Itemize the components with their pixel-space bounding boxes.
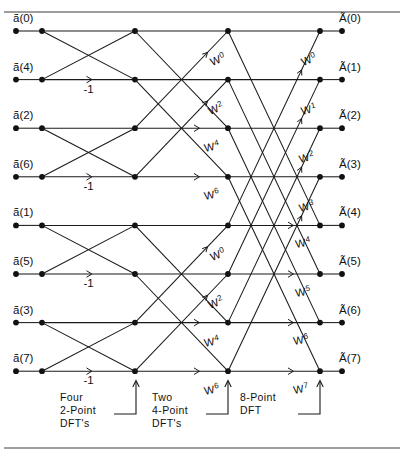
output-node-3 [339, 174, 345, 180]
twiddle-base: W7 [292, 380, 310, 396]
input-node-7 [13, 368, 19, 374]
twiddle-base: W1 [299, 100, 318, 116]
fft-signal-flow-figure: -1-1-1-1W0W2W4W6W0W2W4W6W0W1W2W3W4W5W6W7… [0, 0, 404, 457]
twiddle-exponent: 2 [308, 148, 315, 158]
stage-caption-two-4-point-line1: 4-Point [152, 404, 188, 416]
output-node-6 [339, 320, 345, 326]
output-label-1: Ã(1) [339, 61, 361, 73]
twiddle-exponent: 4 [213, 138, 220, 148]
output-label-5: Ã(5) [339, 255, 361, 267]
twiddle-base: W2 [206, 99, 226, 117]
twiddle-exponent: 4 [213, 333, 220, 343]
input-label-1: ã(1) [13, 206, 34, 218]
twiddle-base: W0 [208, 50, 228, 68]
twiddle-base: W0 [299, 50, 319, 68]
output-label-0: Ã(0) [339, 12, 361, 24]
twiddle-exponent: 6 [213, 186, 220, 196]
output-node-7 [339, 368, 345, 374]
input-label-7: ã(7) [13, 352, 34, 364]
input-label-0: ã(0) [13, 12, 34, 24]
output-node-4 [339, 223, 345, 229]
output-label-2: Ã(2) [339, 109, 361, 121]
stage3-twiddle-7: W7 [292, 380, 310, 396]
twiddle-exponent: 1 [310, 100, 317, 110]
input-node-6 [13, 320, 19, 326]
output-label-4: Ã(4) [339, 206, 361, 218]
stage-caption-eight-point-line1: DFT [240, 404, 262, 416]
twiddle-exponent: 4 [305, 234, 311, 244]
twiddle-exponent: 3 [308, 197, 315, 207]
fft-flow-graph-svg: -1-1-1-1W0W2W4W6W0W2W4W6W0W1W2W3W4W5W6W7… [0, 0, 404, 457]
stage1-neg-label-3: -1 [83, 180, 93, 192]
twiddle-base: W4 [294, 234, 312, 250]
stage1-neg-label-1: -1 [83, 83, 93, 95]
stage2-twiddle-2: W4 [203, 138, 221, 154]
stage3-twiddle-4: W4 [294, 234, 312, 250]
stage-brace-four-2-point [114, 381, 136, 414]
twiddle-base: W4 [203, 138, 221, 154]
input-node-5 [13, 271, 19, 277]
output-node-1 [339, 77, 345, 83]
input-label-6: ã(6) [13, 158, 34, 170]
output-label-6: Ã(6) [339, 304, 361, 316]
twiddle-exponent: 6 [303, 331, 309, 341]
stage1-neg-label-7: -1 [83, 374, 93, 386]
twiddle-exponent: 0 [309, 50, 317, 60]
twiddle-base: W0 [208, 245, 228, 263]
twiddle-base: W5 [294, 283, 312, 299]
twiddle-exponent: 7 [303, 380, 309, 390]
stage1-neg-label-5: -1 [83, 277, 93, 289]
stage2-twiddle-4: W0 [208, 245, 228, 263]
stage2-twiddle-0: W0 [208, 50, 228, 68]
input-label-5: ã(5) [13, 255, 34, 267]
input-node-2 [13, 125, 19, 131]
stage-caption-four-2-point-line1: 2-Point [60, 404, 96, 416]
twiddle-exponent: 6 [213, 381, 220, 391]
output-label-7: Ã(7) [339, 352, 361, 364]
stage3-twiddle-5: W5 [294, 283, 312, 299]
output-node-0 [339, 28, 345, 34]
twiddle-base: W6 [203, 381, 221, 397]
twiddle-exponent: 2 [216, 293, 224, 303]
stage2-twiddle-7: W6 [203, 381, 221, 397]
twiddle-exponent: 0 [218, 245, 226, 255]
twiddle-exponent: 0 [218, 50, 226, 60]
twiddle-base: W4 [203, 333, 221, 349]
input-node-0 [13, 28, 19, 34]
stage-caption-two-4-point-line0: Two [152, 391, 172, 403]
stage-caption-four-2-point-line0: Four [60, 391, 83, 403]
stage3-twiddle-1: W1 [299, 100, 318, 116]
twiddle-base: W6 [203, 186, 221, 202]
stage2-twiddle-1: W2 [206, 99, 226, 117]
input-label-4: ã(4) [13, 61, 34, 73]
stage3-twiddle-0: W0 [299, 50, 319, 68]
output-label-3: Ã(3) [339, 158, 361, 170]
input-node-3 [13, 174, 19, 180]
twiddle-exponent: 2 [216, 99, 224, 109]
stage3-twiddle-2: W2 [297, 148, 316, 164]
twiddle-base: W2 [297, 148, 316, 164]
input-node-4 [13, 223, 19, 229]
output-node-2 [339, 125, 345, 131]
stage2-twiddle-6: W4 [203, 333, 221, 349]
input-label-3: ã(3) [13, 304, 34, 316]
twiddle-exponent: 5 [305, 283, 311, 293]
twiddle-base: W2 [206, 293, 226, 311]
output-node-5 [339, 271, 345, 277]
stage-caption-eight-point-line0: 8-Point [240, 391, 276, 403]
input-node-1 [13, 77, 19, 83]
stage2-twiddle-5: W2 [206, 293, 226, 311]
stage-caption-two-4-point-line2: DFT's [152, 417, 182, 429]
stage-caption-four-2-point-line2: DFT's [60, 417, 90, 429]
input-label-2: ã(2) [13, 109, 34, 121]
stage2-twiddle-3: W6 [203, 186, 221, 202]
